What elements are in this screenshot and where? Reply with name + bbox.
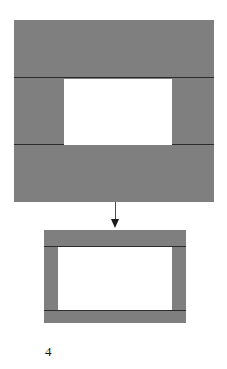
- finished-frame: [44, 230, 186, 323]
- bottom-rail-rule: [44, 310, 186, 311]
- upper-band: [14, 20, 214, 78]
- lower-band: [14, 145, 214, 202]
- left-stile: [44, 247, 58, 311]
- top-rail-rule: [44, 246, 186, 247]
- window-opening-small: [58, 247, 172, 311]
- arrow-head-icon: [111, 219, 119, 228]
- figure-caption: 4: [14, 344, 125, 360]
- window-opening-large: [64, 79, 172, 145]
- large-frame-blank: [14, 20, 214, 202]
- right-stile: [172, 247, 186, 311]
- process-arrow-down: [108, 202, 124, 228]
- figure-canvas: 4: [0, 0, 227, 369]
